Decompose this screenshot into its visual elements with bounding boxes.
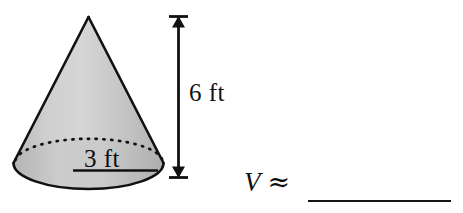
height-dimension-label: 6 ft [189, 80, 225, 105]
radius-dimension-label: 3 ft [84, 146, 120, 171]
volume-answer-blank[interactable] [308, 200, 451, 202]
cone-volume-figure: 6 ft 3 ft V≈ [0, 0, 463, 213]
cone-diagram [0, 0, 463, 213]
volume-variable: V [244, 167, 261, 197]
volume-answer-prompt: V≈ [244, 168, 290, 196]
approximately-equal-icon: ≈ [261, 166, 291, 197]
height-dimension [169, 16, 188, 178]
